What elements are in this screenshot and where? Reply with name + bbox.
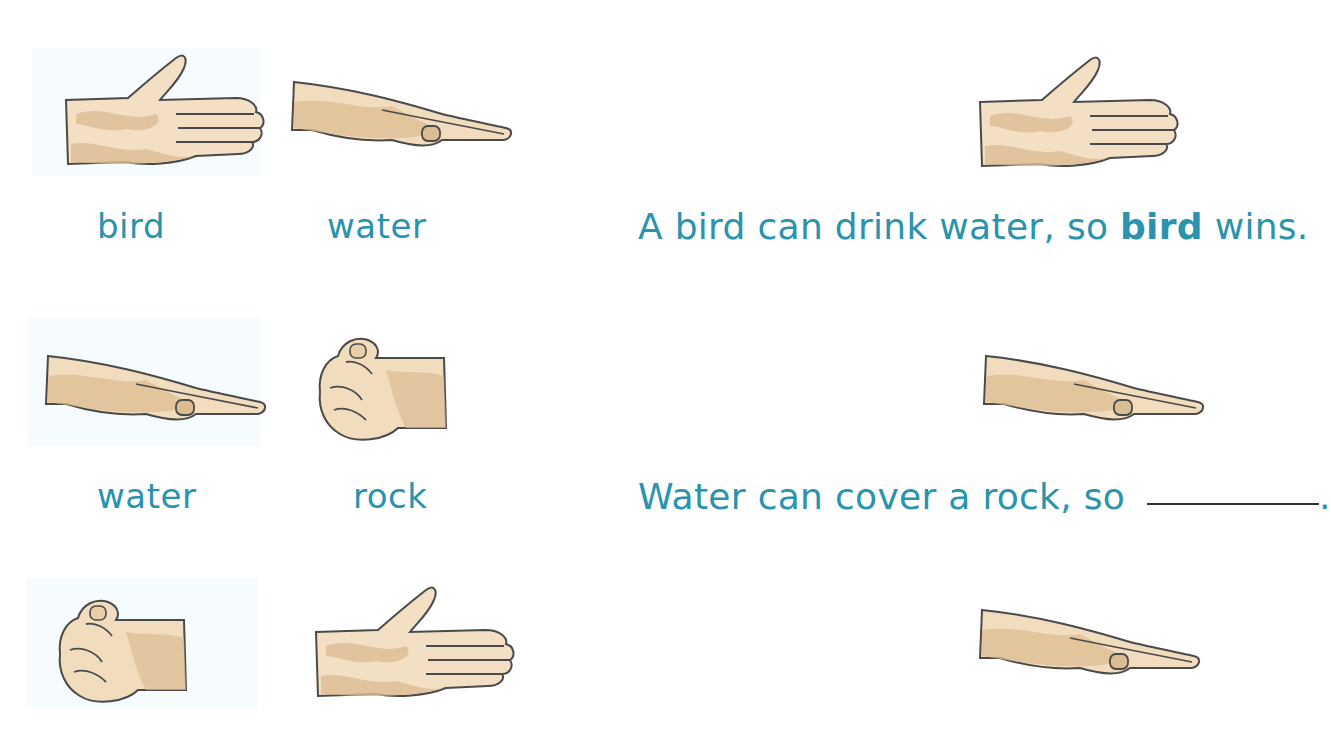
open-hand-icon xyxy=(980,56,1174,166)
gesture-label-water: water xyxy=(97,476,196,516)
sentence-text: A bird can drink water, so xyxy=(638,206,1120,247)
open-hand-icon xyxy=(316,586,500,696)
fist-icon xyxy=(56,592,198,692)
gesture-label-rock: rock xyxy=(353,476,427,516)
flat-hand-icon xyxy=(984,356,1198,416)
gesture-label-water: water xyxy=(327,206,426,246)
answer-blank[interactable] xyxy=(1147,503,1319,505)
flat-hand-icon xyxy=(980,610,1192,670)
fist-icon xyxy=(316,330,456,430)
winner-word: bird xyxy=(1120,206,1203,247)
sentence-text: Water can cover a rock, so xyxy=(638,476,1137,517)
sentence-text: . xyxy=(1319,476,1331,517)
gesture-label-bird: bird xyxy=(97,206,165,246)
result-sentence-row-2: Water can cover a rock, so . xyxy=(638,476,1331,517)
sentence-text: wins. xyxy=(1203,206,1309,247)
result-sentence-row-1: A bird can drink water, so bird wins. xyxy=(638,206,1309,247)
flat-hand-icon xyxy=(46,356,262,416)
flat-hand-icon xyxy=(292,82,514,142)
open-hand-icon xyxy=(66,54,256,166)
